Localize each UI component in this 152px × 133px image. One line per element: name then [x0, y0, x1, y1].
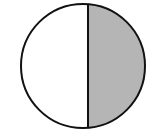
fraction-circle-svg [0, 0, 152, 133]
fraction-circle-figure: Circle divided into two equal halves wit… [0, 0, 152, 133]
shaded-half-right [88, 4, 145, 128]
